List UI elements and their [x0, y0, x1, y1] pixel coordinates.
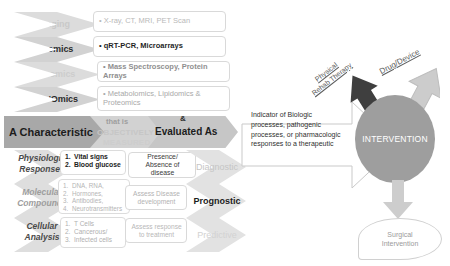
outcome-line1: Assess Disease	[133, 190, 180, 198]
banner-measured-label: MEASURED	[103, 138, 150, 147]
modality-example-box-genomics[interactable]: qRT-PCR, Microarrays	[93, 36, 226, 57]
outcome-box-assess-response-treatment[interactable]: Assess response to treatment	[125, 218, 187, 243]
list-item-number: 2.	[63, 190, 72, 198]
outcome-line2: Absence of disease	[134, 161, 191, 177]
outcome-text: Assess Disease development	[128, 188, 184, 208]
list-item: 2. Cancerous/	[65, 228, 122, 236]
list-item: 4. Neurotransmitters	[63, 205, 126, 213]
list-item: 3. Infected cells	[65, 236, 122, 244]
modality-chevron-imaging-label: Imaging	[36, 20, 70, 29]
list-item: 1. Vital signs	[65, 153, 122, 161]
outcome-line1: Assess response	[131, 223, 181, 231]
banner-evaluated-as-label: Evaluated As	[155, 126, 217, 137]
modality-chevron-imaging[interactable]: Imaging	[14, 12, 100, 37]
modality-example-imaging-text: X-ray, CT, MRI, PET Scan	[94, 15, 194, 28]
analysis-items-cellular[interactable]: 1. T Cells 2. Cancerous/ 3. Infected cel…	[60, 217, 126, 248]
list-item: 2. Hormones,	[63, 190, 126, 198]
intervention-circle[interactable]: INTERVENTION	[355, 95, 435, 183]
diagram-canvas: Imaging Genomics Proteomics Other 'Omics…	[0, 0, 450, 266]
surgical-intervention-text: Surgical Intervention	[382, 230, 419, 248]
modality-example-box-proteomics[interactable]: Mass Spectroscopy, Protein Arrays	[97, 61, 230, 82]
surgical-line2: Intervention	[382, 239, 419, 248]
modality-example-genomics-text: qRT-PCR, Microarrays	[94, 40, 187, 53]
list-item-number: 3.	[65, 236, 74, 244]
banner-a-characteristic-label: A Characteristic	[9, 126, 93, 138]
outcome-line1: Presence/	[134, 153, 191, 161]
list-item: 1. T Cells	[65, 220, 122, 228]
surgical-down-arrow-icon	[380, 180, 416, 220]
modality-example-box-imaging[interactable]: X-ray, CT, MRI, PET Scan	[93, 11, 226, 32]
intervention-circle-label: INTERVENTION	[362, 134, 428, 144]
modality-chevron-proteomics[interactable]: Proteomics	[14, 62, 100, 87]
list-item-number: 3.	[63, 197, 72, 205]
modality-chevron-proteomics-label: Proteomics	[27, 70, 75, 79]
classification-label-prognostic: Prognostic	[188, 196, 246, 206]
list-item: 1. DNA, RNA,	[63, 182, 126, 190]
modality-example-proteomics-text: Mass Spectroscopy, Protein Arrays	[98, 61, 229, 83]
classification-label-diagnostic: Diagnostic	[188, 162, 246, 172]
analysis-items-physiologic[interactable]: 1. Vital signs 2. Blood glucose	[60, 150, 126, 175]
list-item-number: 1.	[65, 220, 74, 228]
list-item: 2. Blood glucose	[65, 161, 122, 169]
analysis-items-molecular[interactable]: 1. DNA, RNA, 2. Hormones, 3. Antibodies,…	[58, 179, 130, 214]
outcome-line2: to treatment	[131, 231, 181, 239]
list-item-text: Hormones,	[72, 190, 103, 198]
surgical-line1: Surgical	[382, 230, 419, 239]
banner-objectively-label: OBJECTIVELY	[97, 128, 154, 137]
modality-example-other-omics-text: Metabolomics, Lipidomics & Proteomics	[98, 88, 229, 110]
list-item-text: Vital signs	[74, 153, 108, 161]
surgical-intervention-shape[interactable]: Surgical Intervention	[358, 218, 442, 260]
outcome-box-assess-disease-development[interactable]: Assess Disease development	[125, 185, 187, 210]
modality-chevron-other-omics-label: Other 'Omics	[23, 95, 78, 104]
modality-chevron-genomics-label: Genomics	[31, 45, 74, 54]
outcome-box-presence-absence[interactable]: Presence/ Absence of disease	[128, 152, 196, 178]
list-item-text: Cancerous/	[74, 228, 107, 236]
modality-chevron-genomics[interactable]: Genomics	[14, 37, 100, 62]
modality-example-box-other-omics[interactable]: Metabolomics, Lipidomics & Proteomics	[97, 86, 230, 111]
list-item: 3. Antibodies,	[63, 197, 126, 205]
banner-ampersand-label: &	[180, 114, 186, 123]
list-item-text: DNA, RNA,	[72, 182, 104, 190]
list-item-text: Neurotransmitters	[72, 205, 122, 213]
list-item-text: T Cells	[74, 220, 94, 228]
list-item-text: Blood glucose	[74, 161, 121, 169]
outcome-text: Assess response to treatment	[126, 221, 185, 241]
banner-that-is-label: that is	[106, 117, 128, 126]
list-item-number: 4.	[63, 205, 72, 213]
list-item-text: Infected cells	[74, 236, 112, 244]
list-item-number: 1.	[65, 153, 74, 161]
list-item-number: 1.	[63, 182, 72, 190]
list-item-text: Antibodies,	[72, 197, 103, 205]
modality-chevron-other-omics[interactable]: Other 'Omics	[14, 87, 100, 112]
outcome-line2: development	[133, 198, 180, 206]
classification-label-predictive: Predictive	[188, 230, 246, 240]
list-item-number: 2.	[65, 161, 74, 169]
list-item-number: 2.	[65, 228, 74, 236]
outcome-text: Presence/ Absence of disease	[129, 151, 195, 179]
